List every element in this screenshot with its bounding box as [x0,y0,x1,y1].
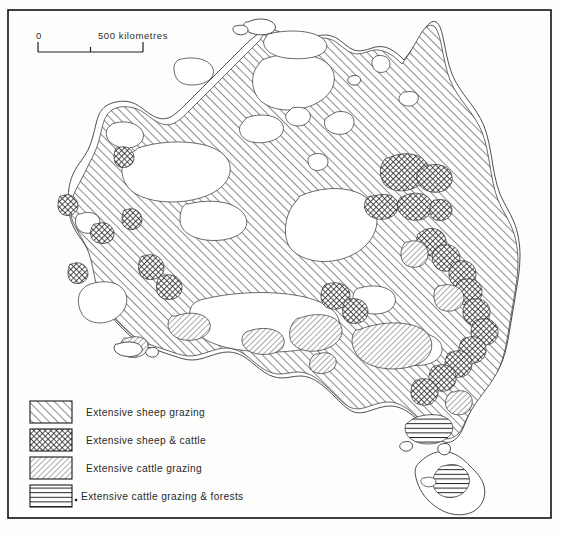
legend-swatch-sheep [30,401,72,423]
sheep-cattle-patch [398,193,433,220]
sheep-cattle-patch [411,379,438,406]
sheep-cattle-patch [58,195,78,216]
legend-item-sheep[interactable]: Extensive sheep grazing [30,401,205,423]
sheep-cattle-patch [417,164,452,192]
sheep-cattle-patch [114,147,134,168]
bathurst-island [233,25,248,35]
hole-gibson-desert [180,201,247,240]
hole-central-arid-small [240,115,284,143]
cattle-grazing-patch [446,391,473,415]
sheep-cattle-patch [157,275,183,300]
king-island [400,441,413,451]
scale-end-label: 500 kilometres [98,30,168,41]
small-island-bight [146,347,159,357]
scale-bar-line [38,42,143,52]
groote-eylandt [348,75,361,85]
legend-item-cattle[interactable]: Extensive cattle grazing [30,457,202,479]
tasmania-lake-hole [421,477,436,487]
tasmania-cattle-forest-patch [433,464,470,497]
legend-item-cattle-forest[interactable]: Extensive cattle grazing & forests [30,485,244,507]
cattle-grazing-patch [168,313,210,340]
hole-interior-small-2 [399,91,418,106]
sheep-cattle-patch [343,299,369,324]
hole-gulf-pocket [372,55,390,72]
legend-label-cattle-forest: Extensive cattle grazing & forests [81,491,244,502]
legend-label-sheep-cattle: Extensive sheep & cattle [86,435,206,446]
mainland-australia [58,21,520,444]
flinders-island [438,443,451,454]
legend-swatch-sheep-cattle [30,429,72,451]
legend-item-sheep-cattle[interactable]: Extensive sheep & cattle [30,429,206,451]
cattle-grazing-patch [401,241,428,268]
legend-label-sheep: Extensive sheep grazing [86,407,205,418]
scale-start-label: 0 [36,30,42,41]
scale-bar: 0 500 kilometres [36,30,168,52]
map-figure: 0 500 kilometres [0,0,561,534]
legend-swatch-cattle-forest [30,485,72,507]
tasmania [415,451,485,514]
map-legend: Extensive sheep grazing Extensive sheep … [30,401,244,507]
melville-island [244,19,276,35]
legend-marker-dot [75,499,78,502]
legend-swatch-cattle [30,457,72,479]
sheep-cattle-patch [430,199,452,220]
sheep-cattle-patch [68,263,88,284]
hole-interior-small-1 [308,153,328,170]
hole-kimberley-inlet [174,58,214,85]
cattle-grazing-patch [242,328,284,354]
sheep-cattle-patch [364,194,398,219]
sheep-cattle-patch [91,223,115,244]
kangaroo-island [114,342,142,357]
sheep-cattle-patch [122,209,142,230]
australia-landuse-map: 0 500 kilometres [0,0,561,534]
legend-label-cattle: Extensive cattle grazing [86,463,202,474]
hole-arnhem-coastal [264,31,327,59]
cattle-grazing-patch [434,285,464,312]
